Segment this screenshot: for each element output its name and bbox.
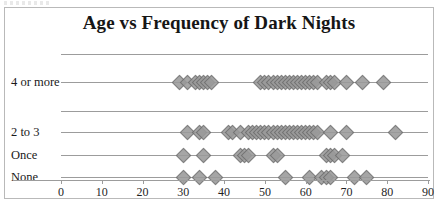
data-point[interactable]: [322, 124, 338, 140]
x-axis-tick-label-2: 20: [137, 185, 149, 200]
data-point[interactable]: [176, 147, 192, 163]
chart-frame: Age vs Frequency of Dark Nights 4 or mor…: [4, 7, 434, 199]
x-axis-tick-label-6: 60: [300, 185, 312, 200]
data-point[interactable]: [277, 169, 293, 185]
chart-title: Age vs Frequency of Dark Nights: [5, 12, 433, 34]
x-axis-tick: [143, 180, 144, 184]
y-axis-label-2: Once: [11, 148, 37, 163]
category-baseline: [61, 82, 428, 83]
y-axis-label-1: 2 to 3: [11, 125, 39, 140]
x-axis-tick: [387, 180, 388, 184]
x-axis-tick-label-0: 0: [58, 185, 64, 200]
data-point[interactable]: [388, 124, 404, 140]
x-axis-tick: [183, 180, 184, 184]
x-axis-tick-label-1: 10: [96, 185, 108, 200]
data-point[interactable]: [359, 169, 375, 185]
data-point[interactable]: [196, 147, 212, 163]
data-point[interactable]: [339, 74, 355, 90]
category-row-once: Once: [5, 155, 435, 156]
x-axis-tick: [346, 180, 347, 184]
scan-artifact: [4, 1, 50, 5]
x-axis-tick: [224, 180, 225, 184]
x-axis-tick: [102, 180, 103, 184]
data-point[interactable]: [192, 169, 208, 185]
data-point[interactable]: [355, 74, 371, 90]
category-row-none: None: [5, 177, 435, 178]
x-axis-tick: [265, 180, 266, 184]
x-axis-tick-label-4: 40: [218, 185, 230, 200]
x-axis-tick-label-7: 70: [340, 185, 352, 200]
category-row-2-to-3: 2 to 3: [5, 132, 435, 133]
x-axis-tick: [428, 180, 429, 184]
data-point[interactable]: [375, 74, 391, 90]
x-axis-tick-label-3: 30: [177, 185, 189, 200]
x-axis-tick: [61, 180, 62, 184]
x-axis-tick-label-5: 50: [259, 185, 271, 200]
data-point[interactable]: [208, 169, 224, 185]
data-point[interactable]: [339, 124, 355, 140]
category-row-4-or-more: 4 or more: [5, 82, 435, 83]
x-axis-tick-label-8: 80: [381, 185, 393, 200]
plot-area: 4 or more2 to 3OnceNone: [5, 35, 435, 173]
x-axis-line: [13, 180, 430, 181]
y-axis-label-3: None: [11, 170, 38, 185]
chart-gridline: [61, 54, 428, 55]
y-axis-label-0: 4 or more: [11, 75, 60, 90]
x-axis-tick-label-9: 90: [422, 185, 434, 200]
chart-gridline: [61, 111, 428, 112]
x-axis-tick: [306, 180, 307, 184]
